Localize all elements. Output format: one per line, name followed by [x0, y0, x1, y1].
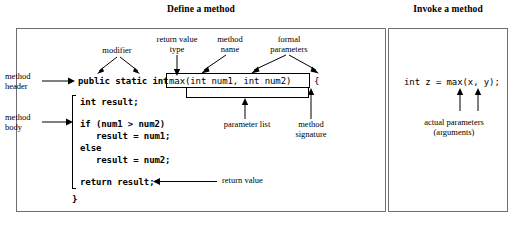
invoke-a-method-title: Invoke a method	[388, 4, 508, 14]
close-brace-code: }	[72, 194, 77, 204]
modifier-label: modifier	[92, 46, 142, 56]
actual-parameter-x-arrow-icon	[455, 88, 465, 112]
parameter-list-arrow-icon	[240, 98, 250, 120]
method-signature-arrow-icon	[306, 88, 316, 120]
method-body-line-0: int result;	[80, 97, 139, 107]
open-brace-code: {	[314, 76, 319, 86]
method-header-arrow-icon	[42, 75, 76, 87]
method-body-line-2: if (num1 > num2)	[80, 119, 165, 129]
method-body-line-5: result = num2;	[80, 155, 170, 165]
method-header-code: public static int	[78, 76, 168, 86]
parameter-list-label: parameter list	[214, 120, 280, 130]
method-body-line-7: return result;	[80, 177, 154, 187]
invoke-method-code: int z = max(x, y);	[404, 77, 500, 87]
method-body-line-3: result = num1;	[80, 131, 170, 141]
formal-parameters-label: formal parameters	[258, 35, 320, 54]
modifier-pointer-arrows-icon	[92, 57, 148, 77]
define-a-method-title: Define a method	[16, 4, 386, 14]
method-signature-code: max(int num1, int num2)	[169, 76, 291, 86]
actual-parameter-y-arrow-icon	[473, 88, 483, 112]
method-body-bracket	[72, 95, 76, 189]
actual-parameters-label: actual parameters (arguments)	[404, 118, 504, 137]
method-signature-label: method signature	[288, 120, 334, 139]
return-value-arrow-icon	[152, 176, 218, 187]
method-body-arrow-icon	[42, 116, 74, 128]
method-body-line-4: else	[80, 143, 101, 153]
method-name-label: method name	[208, 35, 252, 54]
return-value-type-label: return value type	[148, 35, 206, 54]
return-value-label: return value	[222, 176, 292, 186]
